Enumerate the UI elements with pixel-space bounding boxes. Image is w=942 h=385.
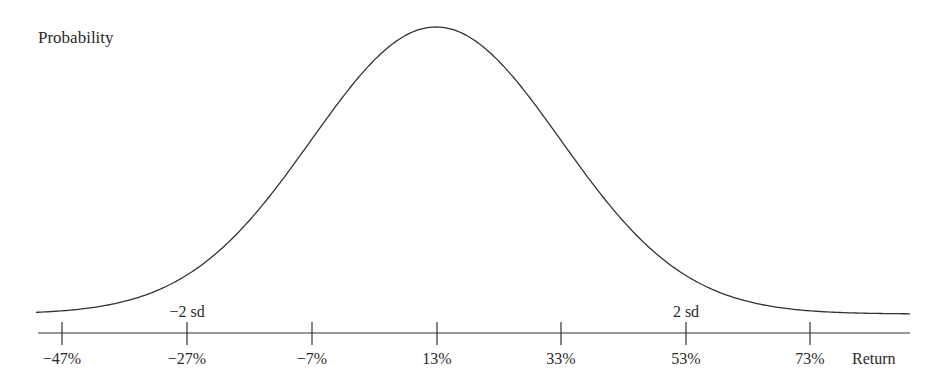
- bell-curve: [36, 27, 910, 314]
- tick-label: 13%: [422, 350, 451, 367]
- tick-label: 73%: [795, 350, 824, 367]
- x-axis-label: Return: [852, 350, 896, 367]
- minus-2sd-annotation: −2 sd: [169, 303, 204, 320]
- normal-distribution-chart: Probability −47% −27% −7% 13% 33% 53% 73…: [0, 0, 942, 385]
- plus-2sd-annotation: 2 sd: [673, 303, 699, 320]
- tick-label: −7%: [297, 350, 327, 367]
- tick-label: 53%: [671, 350, 700, 367]
- x-axis-tick-labels: −47% −27% −7% 13% 33% 53% 73%: [43, 350, 825, 367]
- tick-label: 33%: [546, 350, 575, 367]
- tick-label: −27%: [168, 350, 206, 367]
- tick-label: −47%: [43, 350, 81, 367]
- y-axis-label: Probability: [38, 28, 114, 47]
